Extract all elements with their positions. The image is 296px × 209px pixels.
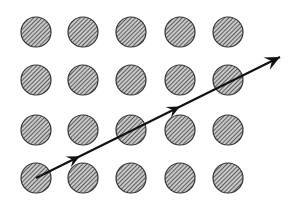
- lattice-point-circle: [213, 65, 243, 95]
- lattice-diagram: [0, 0, 296, 209]
- lattice-point-circle: [213, 115, 243, 145]
- lattice-point-circle: [21, 65, 51, 95]
- lattice-point-circle: [68, 65, 98, 95]
- lattice-point-circle: [213, 163, 243, 193]
- lattice-point-circle: [116, 65, 146, 95]
- lattice-point-circle: [116, 17, 146, 47]
- lattice-point-circle: [68, 163, 98, 193]
- lattice-point-circle: [165, 65, 195, 95]
- lattice-point-circle: [165, 163, 195, 193]
- lattice-point-circle: [213, 17, 243, 47]
- lattice-point-circle: [116, 163, 146, 193]
- lattice-point-circle: [21, 115, 51, 145]
- lattice-point-circle: [165, 115, 195, 145]
- lattice-point-circle: [21, 17, 51, 47]
- lattice-point-circle: [68, 17, 98, 47]
- lattice-point-circle: [165, 17, 195, 47]
- lattice-point-circle: [68, 115, 98, 145]
